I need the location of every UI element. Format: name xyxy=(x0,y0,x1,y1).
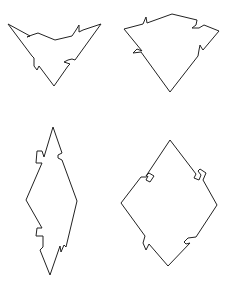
puzzle-piece-bottom-left xyxy=(26,127,77,275)
puzzle-piece-top-right xyxy=(124,14,219,92)
puzzle-diagram xyxy=(0,0,238,291)
puzzle-piece-top-left xyxy=(8,24,101,86)
puzzle-piece-bottom-right xyxy=(121,140,217,266)
